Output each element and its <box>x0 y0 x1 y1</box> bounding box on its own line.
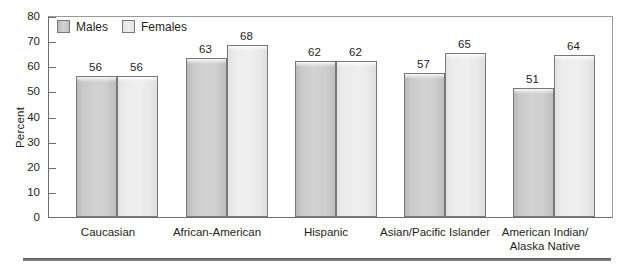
y-tick-80 <box>49 17 56 18</box>
y-tick-label-10: 10 <box>22 187 40 199</box>
value-label-females-hispanic: 62 <box>335 47 376 59</box>
legend-label-males: Males <box>76 21 108 33</box>
y-tick-label-0: 0 <box>22 212 40 224</box>
category-label-caucasian: Caucasian <box>46 226 170 240</box>
y-tick-30 <box>49 143 56 144</box>
bar-females-african-american <box>227 45 268 217</box>
value-label-females-caucasian: 56 <box>116 62 157 74</box>
y-tick-40 <box>49 118 56 119</box>
bar-males-asian-pacific-islander <box>404 73 445 217</box>
bar-males-african-american <box>186 58 227 217</box>
y-tick-70 <box>49 42 56 43</box>
legend-item-females: Females <box>122 20 187 33</box>
y-tick-label-80: 80 <box>22 11 40 23</box>
y-tick-60 <box>49 67 56 68</box>
bottom-divider <box>23 258 611 261</box>
value-label-females-african-american: 68 <box>226 31 267 43</box>
category-label-african-american: African-American <box>155 226 279 240</box>
y-tick-50 <box>49 92 56 93</box>
bar-females-american-indian-alaska-native <box>554 55 595 217</box>
y-tick-label-70: 70 <box>22 36 40 48</box>
legend-swatch-females-icon <box>122 20 135 33</box>
bar-males-caucasian <box>76 76 117 217</box>
bar-females-caucasian <box>117 76 158 217</box>
y-tick-label-50: 50 <box>22 86 40 98</box>
bar-females-hispanic <box>336 61 377 217</box>
value-label-males-caucasian: 56 <box>75 62 116 74</box>
value-label-males-african-american: 63 <box>185 44 226 56</box>
bar-males-hispanic <box>295 61 336 217</box>
legend-swatch-males-icon <box>57 20 70 33</box>
y-tick-20 <box>49 168 56 169</box>
y-tick-label-60: 60 <box>22 61 40 73</box>
bar-males-american-indian-alaska-native <box>513 88 554 217</box>
y-tick-label-30: 30 <box>22 137 40 149</box>
legend-item-males: Males <box>57 20 108 33</box>
y-tick-label-20: 20 <box>22 162 40 174</box>
value-label-females-asian-pacific-islander: 65 <box>444 39 485 51</box>
y-tick-10 <box>49 193 56 194</box>
value-label-males-asian-pacific-islander: 57 <box>403 59 444 71</box>
category-label-american-indian-alaska-native: American Indian/ Alaska Native <box>478 226 612 253</box>
value-label-males-american-indian-alaska-native: 51 <box>512 74 553 86</box>
bar-females-asian-pacific-islander <box>445 53 486 217</box>
legend: Males Females <box>57 20 187 33</box>
bar-chart-figure: Percent 80 70 60 50 40 30 20 10 0 56 <box>0 0 628 277</box>
value-label-males-hispanic: 62 <box>294 47 335 59</box>
legend-label-females: Females <box>141 21 187 33</box>
y-tick-label-40: 40 <box>22 112 40 124</box>
value-label-females-american-indian-alaska-native: 64 <box>553 41 594 53</box>
